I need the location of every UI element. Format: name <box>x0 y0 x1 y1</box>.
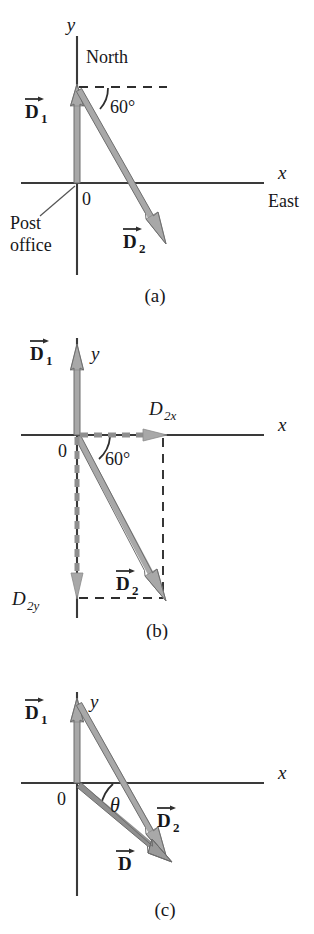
svg-text:D: D <box>118 853 132 874</box>
svg-text:2: 2 <box>132 583 139 598</box>
vector-label-d1-c: D 1 <box>25 697 48 727</box>
component-label-d2x: D 2x <box>148 398 177 423</box>
svg-text:1: 1 <box>41 111 48 126</box>
angle-label-c: θ <box>110 794 120 816</box>
panel-caption-b: (b) <box>146 620 168 640</box>
svg-text:1: 1 <box>46 353 53 368</box>
x-axis-label-c: x <box>277 762 287 783</box>
origin-label-a: 0 <box>82 189 91 209</box>
post-office-leader-line <box>40 186 75 216</box>
vector-label-d2-c: D 2 <box>157 805 180 835</box>
vector-label-d1-a: D 1 <box>25 96 48 126</box>
angle-label-b: 60° <box>105 449 130 469</box>
panel-caption-c: (c) <box>154 899 175 921</box>
vector-label-d1-b: D 1 <box>30 338 53 368</box>
component-label-d2y: D 2y <box>11 588 40 613</box>
svg-text:2: 2 <box>173 820 180 835</box>
panel-a: y x North East 0 60° Post office D 1 D 2… <box>0 0 314 320</box>
origin-label-c: 0 <box>57 789 66 809</box>
east-label-a: East <box>268 191 299 211</box>
svg-text:2: 2 <box>139 241 146 256</box>
vector-d2-c <box>76 703 167 860</box>
x-axis-label-a: x <box>277 162 287 183</box>
panel-b: y x 0 60° D 2x D 2y D 1 D 2 (b) <box>0 320 314 640</box>
svg-text:1: 1 <box>41 712 48 727</box>
svg-text:D: D <box>116 573 130 594</box>
svg-text:D: D <box>123 231 137 252</box>
post-office-label-line2: office <box>10 235 52 255</box>
svg-text:D: D <box>11 588 26 609</box>
svg-text:2y: 2y <box>27 598 40 613</box>
vector-label-d2-a: D 2 <box>123 226 146 256</box>
post-office-label-line1: Post <box>10 213 41 233</box>
svg-text:D: D <box>25 702 39 723</box>
y-axis-label-b: y <box>89 343 100 364</box>
panel-c: y x 0 θ D 1 D 2 D (c) <box>0 660 314 934</box>
y-axis-label-c: y <box>88 691 99 712</box>
svg-text:2x: 2x <box>164 408 177 423</box>
svg-text:D: D <box>30 343 44 364</box>
vector-label-d2-b: D 2 <box>116 568 139 598</box>
svg-text:D: D <box>157 810 171 831</box>
angle-label-a: 60° <box>110 97 135 117</box>
north-label-a: North <box>86 47 128 67</box>
panel-caption-a: (a) <box>144 285 165 307</box>
vector-d1-b <box>71 344 84 435</box>
angle-arc-a <box>100 88 108 109</box>
vector-label-d-c: D <box>116 848 135 874</box>
svg-text:D: D <box>148 398 163 419</box>
x-axis-label-b: x <box>277 414 287 435</box>
svg-text:D: D <box>25 101 39 122</box>
y-axis-label-a: y <box>65 14 76 35</box>
origin-label-b: 0 <box>58 441 67 461</box>
figure-root: y x North East 0 60° Post office D 1 D 2… <box>0 0 314 934</box>
